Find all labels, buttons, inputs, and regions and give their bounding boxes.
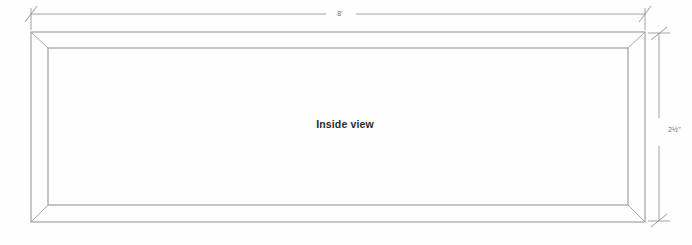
height-dimension-label: 2½" [665,125,684,134]
miter-line-top-left [31,32,48,48]
width-dimension-label: 8' [334,9,346,18]
miter-line-top-right [628,32,645,48]
technical-drawing-canvas: 8' 2½" Inside view [0,0,692,245]
inside-view-label: Inside view [316,118,374,130]
miter-line-bottom-right [628,205,645,222]
miter-line-bottom-left [31,205,48,222]
